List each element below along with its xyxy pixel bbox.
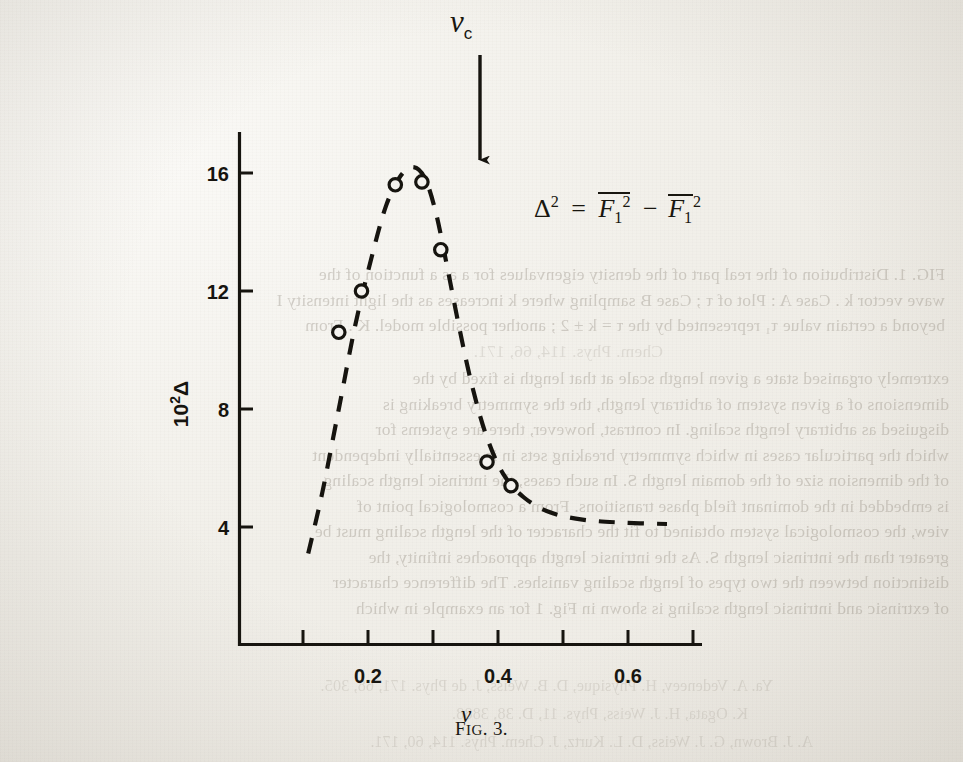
x-tick-label: 0.4	[484, 665, 513, 687]
x-tick-label: 0.6	[614, 665, 642, 687]
formula-mean-f1-all-squared: F12	[668, 194, 701, 223]
data-point	[481, 456, 493, 468]
nu-c-symbol: ν	[450, 4, 464, 39]
caption-prefix: F	[455, 718, 466, 739]
formula-mean-f1-squared: F12	[598, 192, 630, 226]
data-point	[333, 326, 345, 338]
chart-svg: 16 12 8 4 102Δ 0.2	[0, 0, 963, 762]
figure-3: 16 12 8 4 102Δ 0.2	[0, 0, 963, 762]
y-tick-label: 4	[218, 517, 230, 539]
data-point	[389, 179, 401, 191]
scanned-page: FIG. 1. Distribution of the real part of…	[0, 0, 963, 762]
data-point	[435, 244, 447, 256]
x-axis-tick-labels: 0.2 0.4 0.6	[354, 665, 642, 687]
x-axis-ticks	[303, 630, 693, 645]
y-axis-title: 102Δ	[167, 381, 192, 427]
formula-delta: Δ2	[534, 194, 565, 223]
nu-c-subscript: c	[464, 24, 473, 43]
caption-suffix: . 3.	[483, 718, 508, 739]
formula-equals: =	[571, 194, 586, 223]
figure-caption: FIG. 3.	[0, 718, 963, 740]
y-tick-label: 16	[207, 163, 229, 185]
data-point	[355, 285, 367, 297]
data-point	[416, 176, 428, 188]
y-tick-label: 8	[218, 399, 229, 421]
formula-minus: −	[643, 194, 658, 223]
caption-smallcaps: IG	[466, 722, 483, 738]
x-tick-label: 0.2	[354, 665, 382, 687]
y-tick-label: 12	[207, 281, 229, 303]
variance-formula: Δ2 = F12 − F12	[534, 192, 701, 226]
svg-text:102Δ: 102Δ	[167, 381, 192, 427]
nu-c-label: νc	[450, 4, 472, 44]
y-axis-tick-labels: 16 12 8 4	[207, 163, 230, 539]
data-point	[505, 480, 517, 492]
y-axis-ticks	[240, 173, 254, 527]
